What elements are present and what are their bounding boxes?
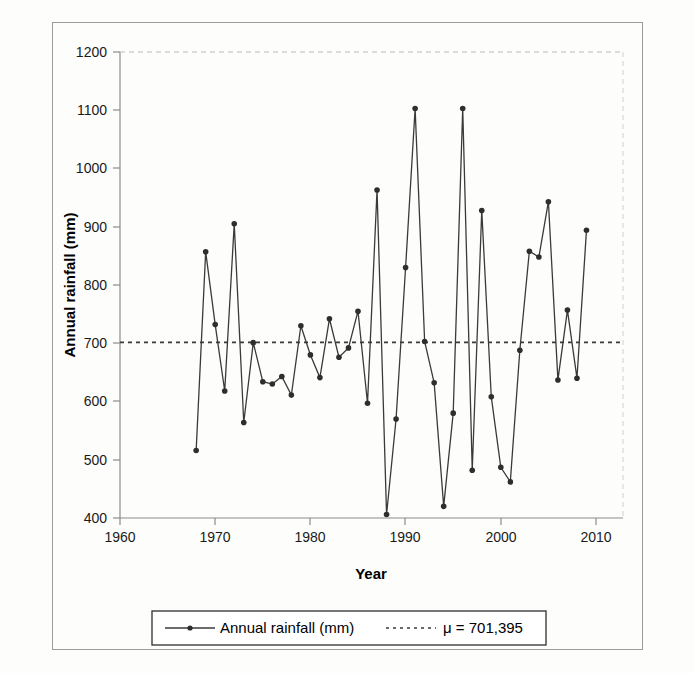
data-point xyxy=(403,265,409,271)
y-tick-label: 500 xyxy=(84,452,108,468)
legend-series-marker-icon xyxy=(187,625,192,630)
x-axis-ticks xyxy=(120,518,596,525)
data-point xyxy=(241,420,247,426)
data-point xyxy=(346,345,352,351)
figure-frame: 1200 1100 1000 900 800 700 600 500 400 xyxy=(52,22,643,650)
rainfall-line-chart: 1200 1100 1000 900 800 700 600 500 400 xyxy=(53,23,642,649)
data-point xyxy=(193,448,199,454)
x-tick-label: 2000 xyxy=(485,529,516,545)
x-axis-title: Year xyxy=(355,565,387,582)
data-point xyxy=(431,380,437,386)
data-point xyxy=(441,504,447,510)
data-point xyxy=(393,416,399,422)
y-tick-label: 1200 xyxy=(76,44,107,60)
data-point xyxy=(231,221,237,227)
y-tick-label: 400 xyxy=(84,510,108,526)
figure-caption xyxy=(6,658,689,673)
rainfall-series-markers xyxy=(193,106,589,518)
data-point xyxy=(203,249,209,255)
data-point xyxy=(565,307,571,313)
page-background: 1200 1100 1000 900 800 700 600 500 400 xyxy=(0,0,695,673)
data-point xyxy=(336,354,342,360)
y-tick-label: 900 xyxy=(84,219,108,235)
data-point xyxy=(212,322,218,328)
data-point xyxy=(527,248,533,254)
data-point xyxy=(365,400,371,406)
data-point xyxy=(260,379,266,385)
data-point xyxy=(222,388,228,394)
y-tick-label: 700 xyxy=(84,335,108,351)
y-axis-title: Annual rainfall (mm) xyxy=(61,212,78,357)
legend-series-label: Annual rainfall (mm) xyxy=(220,619,354,636)
data-point xyxy=(508,479,514,485)
data-point xyxy=(574,375,580,381)
x-tick-label: 1980 xyxy=(294,529,325,545)
x-tick-label: 1990 xyxy=(389,529,420,545)
y-axis-ticks xyxy=(113,52,120,518)
data-point xyxy=(546,199,552,205)
x-tick-label: 1960 xyxy=(104,529,135,545)
data-point xyxy=(308,352,314,358)
data-point xyxy=(412,106,418,112)
data-point xyxy=(479,208,485,214)
data-point xyxy=(384,512,390,518)
data-point xyxy=(270,381,276,387)
data-point xyxy=(536,254,542,260)
x-tick-label-group: 1960 1970 1980 1990 2000 2010 xyxy=(104,529,611,545)
data-point xyxy=(584,227,590,233)
data-point xyxy=(298,323,304,329)
plot-area: 1200 1100 1000 900 800 700 600 500 400 xyxy=(61,44,623,582)
y-tick-label: 1100 xyxy=(77,102,107,118)
x-tick-label: 1970 xyxy=(199,529,230,545)
data-point xyxy=(460,106,466,112)
data-point xyxy=(250,340,256,346)
data-point xyxy=(289,392,295,398)
data-point xyxy=(469,467,475,473)
data-point xyxy=(317,375,323,381)
data-point xyxy=(374,187,380,193)
x-tick-label: 2010 xyxy=(580,529,611,545)
chart-legend: Annual rainfall (mm) μ = 701,395 xyxy=(152,611,546,645)
data-point xyxy=(450,410,456,416)
data-point xyxy=(488,394,494,400)
y-tick-label: 1000 xyxy=(76,160,107,176)
legend-mean-label: μ = 701,395 xyxy=(443,619,523,636)
data-point xyxy=(355,308,361,314)
y-tick-label: 600 xyxy=(84,393,108,409)
data-point xyxy=(555,377,561,383)
data-point xyxy=(279,374,285,380)
data-point xyxy=(422,339,428,345)
data-point xyxy=(498,465,504,471)
y-tick-label: 800 xyxy=(84,277,108,293)
y-tick-label-group: 1200 1100 1000 900 800 700 600 500 400 xyxy=(76,44,107,526)
data-point xyxy=(327,316,333,322)
data-point xyxy=(517,347,523,353)
rainfall-series-line xyxy=(196,109,586,515)
